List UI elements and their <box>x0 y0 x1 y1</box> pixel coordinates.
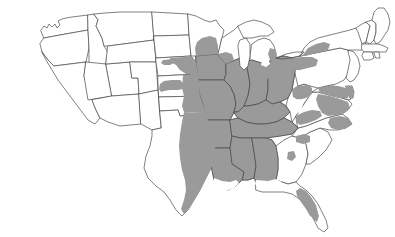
state-alabama-highlight[interactable] <box>252 138 278 182</box>
state-arizona[interactable] <box>92 94 141 126</box>
us-map-svg <box>0 0 395 237</box>
state-rhode-island[interactable] <box>374 52 380 58</box>
state-michigan-upper[interactable] <box>238 20 274 38</box>
state-massachusetts[interactable] <box>362 44 388 52</box>
state-new-mexico[interactable] <box>139 90 161 130</box>
patch-east-kansas[interactable] <box>182 74 200 96</box>
patch-georgia-north[interactable] <box>296 134 310 144</box>
state-connecticut[interactable] <box>362 52 374 60</box>
us-choropleth-map-figure <box>0 0 395 237</box>
state-south-dakota[interactable] <box>154 35 191 58</box>
